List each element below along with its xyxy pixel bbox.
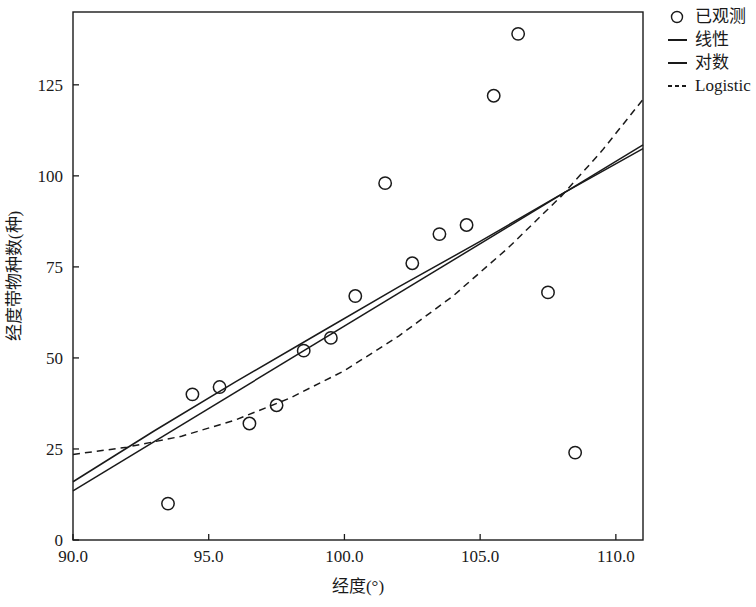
x-axis-ticks: 90.095.0100.0105.0110.0 <box>58 534 635 566</box>
data-point <box>379 177 391 189</box>
observed-data-points <box>162 28 582 510</box>
data-point <box>243 417 255 429</box>
data-point <box>512 28 524 40</box>
y-axis-label: 经度带物种数(种) <box>5 211 24 341</box>
legend-label: 线性 <box>695 30 729 49</box>
data-point <box>488 90 500 102</box>
scatter-plot-svg: 90.095.0100.0105.0110.0 0255075100125 经度… <box>0 0 756 607</box>
plot-frame <box>73 12 643 540</box>
data-point <box>186 388 198 400</box>
y-tick-label: 50 <box>46 349 63 368</box>
y-tick-label: 125 <box>38 76 64 95</box>
chart-figure: 90.095.0100.0105.0110.0 0255075100125 经度… <box>0 0 756 607</box>
x-tick-label: 95.0 <box>194 547 224 566</box>
data-point <box>460 219 472 231</box>
x-tick-label: 105.0 <box>461 547 499 566</box>
y-tick-label: 25 <box>46 440 63 459</box>
data-point <box>433 228 445 240</box>
y-tick-label: 75 <box>46 258 63 277</box>
x-tick-label: 110.0 <box>597 547 635 566</box>
curve-Logistic <box>73 99 643 454</box>
plot-area-border <box>73 12 643 540</box>
legend-label: 已观测 <box>695 7 746 26</box>
y-tick-label: 0 <box>55 531 64 550</box>
x-axis-label: 经度(°) <box>332 577 384 596</box>
data-point <box>349 290 361 302</box>
y-tick-label: 100 <box>38 167 64 186</box>
data-point <box>569 446 581 458</box>
data-point <box>162 497 174 509</box>
legend-label: 对数 <box>695 53 729 72</box>
data-point <box>406 257 418 269</box>
x-tick-label: 100.0 <box>325 547 363 566</box>
legend-label: Logistic <box>695 76 751 95</box>
chart-legend: 已观测线性对数Logistic <box>668 7 751 95</box>
fitted-curves <box>73 99 643 490</box>
data-point <box>542 286 554 298</box>
curve-对数 <box>73 149 643 482</box>
legend-marker-circle-icon <box>672 12 683 23</box>
